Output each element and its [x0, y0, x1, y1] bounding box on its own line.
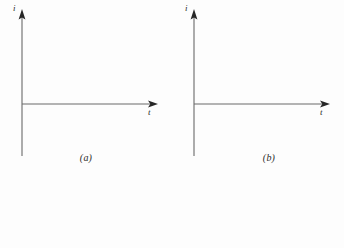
- panel-caption-a: (a): [0, 152, 172, 163]
- figure-panel-a: i t (a): [0, 0, 172, 248]
- panel-caption-b: (b): [172, 152, 344, 163]
- figure-panel-b: i t (b): [172, 0, 344, 248]
- figure-canvas: i t (a) i t (b): [0, 0, 344, 248]
- horizontal-axis-label: t: [320, 108, 323, 117]
- vertical-axis-label: i: [13, 4, 16, 13]
- vertical-axis-label: i: [185, 4, 188, 13]
- horizontal-axis-label: t: [148, 108, 151, 117]
